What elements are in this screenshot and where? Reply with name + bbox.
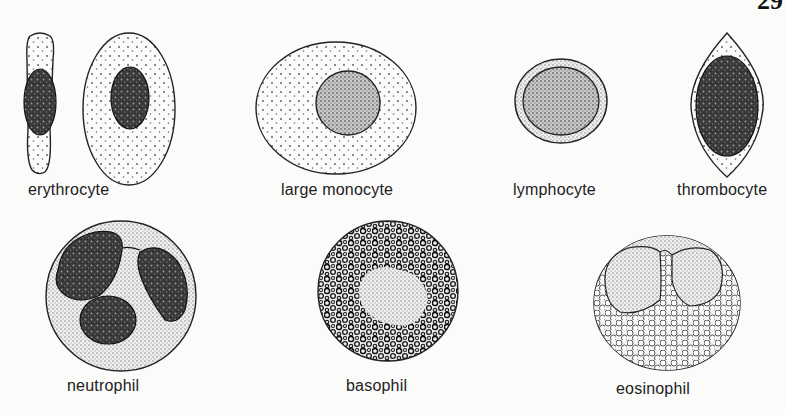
erythrocyte-face-view xyxy=(83,33,175,185)
label-basophil: basophil xyxy=(346,377,407,395)
label-lymphocyte: lymphocyte xyxy=(513,181,596,199)
label-neutrophil: neutrophil xyxy=(67,377,139,395)
label-erythrocyte: erythrocyte xyxy=(28,181,109,199)
blood-cells-figure xyxy=(0,0,785,415)
label-eosinophil: eosinophil xyxy=(616,380,690,398)
eosinophil-illustration xyxy=(594,236,740,370)
basophil-illustration xyxy=(318,221,458,361)
label-thrombocyte: thrombocyte xyxy=(677,181,767,199)
large-monocyte-illustration xyxy=(256,42,416,174)
lymphocyte-illustration xyxy=(515,59,607,143)
label-large-monocyte: large monocyte xyxy=(281,181,393,199)
erythrocyte-side-view xyxy=(24,33,56,174)
thrombocyte-illustration xyxy=(691,33,763,177)
neutrophil-illustration xyxy=(46,221,196,371)
